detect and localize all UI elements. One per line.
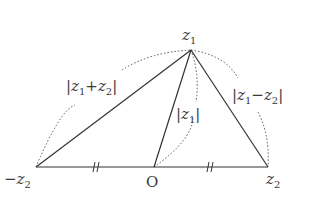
point-neg-z2-label: −z2: [4, 172, 31, 190]
side-sum: [36, 50, 191, 167]
sum-modulus-label: |z1+z2|: [66, 79, 117, 97]
z1-modulus-label: |z1|: [176, 107, 200, 125]
arc-sum: [36, 105, 75, 167]
origin-label: O: [146, 175, 158, 190]
arc-mod: [154, 118, 193, 167]
diagram-canvas: z1 −z2 O z2 |z1+z2| |z1−z2| |z1|: [0, 0, 318, 204]
arc-sum-top: [122, 50, 191, 70]
point-z2-label: z2: [266, 172, 280, 190]
point-z1-label: z1: [182, 28, 196, 46]
diff-modulus-label: |z1−z2|: [232, 88, 283, 106]
arc-diff: [191, 50, 238, 78]
